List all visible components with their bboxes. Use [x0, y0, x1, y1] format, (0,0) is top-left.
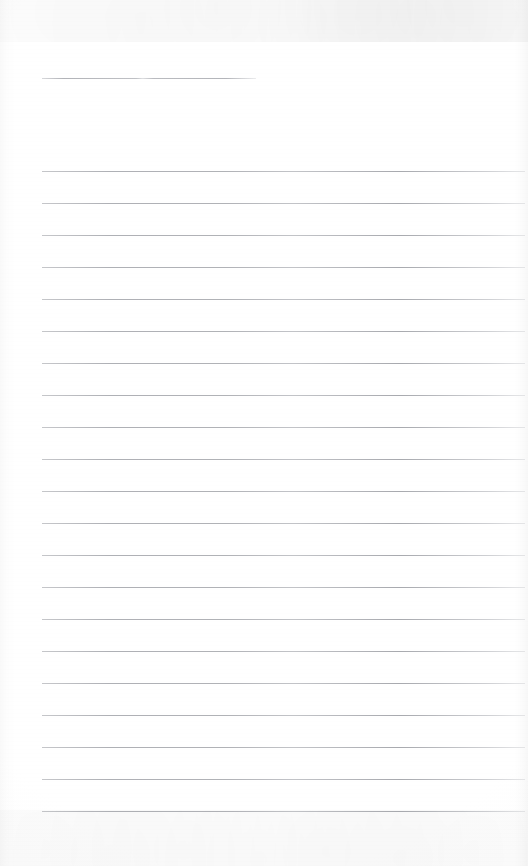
ruled-line — [42, 427, 525, 428]
ruled-line — [42, 171, 525, 172]
ruled-line — [42, 395, 525, 396]
ruled-line — [42, 491, 525, 492]
ruled-line — [42, 459, 525, 460]
ruled-line — [42, 299, 525, 300]
ruled-line — [42, 779, 525, 780]
ruled-line — [42, 203, 525, 204]
paper-background — [0, 0, 528, 866]
ruled-line — [42, 811, 525, 812]
ruled-line — [42, 587, 525, 588]
ruled-line — [42, 267, 525, 268]
ruled-line — [42, 619, 525, 620]
ruled-line — [42, 715, 525, 716]
ruled-line — [42, 555, 525, 556]
ruled-line — [42, 651, 525, 652]
scanned-page — [0, 0, 528, 866]
ruled-line — [42, 331, 525, 332]
ruled-line — [42, 235, 525, 236]
ruled-line — [42, 363, 525, 364]
ruled-line — [42, 683, 525, 684]
ruled-line — [42, 747, 525, 748]
title-rule — [42, 78, 256, 79]
ruled-line — [42, 523, 525, 524]
